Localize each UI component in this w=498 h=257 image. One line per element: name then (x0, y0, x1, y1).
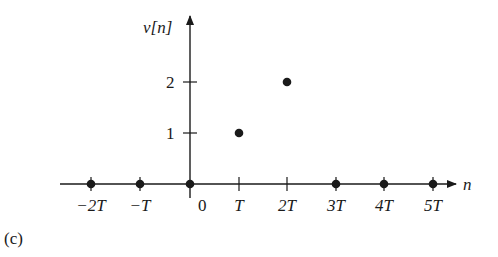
point-4T (380, 180, 389, 189)
point-T (235, 129, 244, 138)
point-2T (283, 78, 292, 87)
x-tick-label-0: 0 (198, 196, 207, 215)
discrete-signal-plot: v[n] 2 1 n −2T −T 0 T 2T 3T 4T 5T (c) (0, 0, 498, 257)
x-tick-label-minus-2T: −2T (76, 196, 107, 215)
point-minus-T (136, 180, 145, 189)
point-5T (429, 180, 438, 189)
x-tick-label-4T: 4T (375, 196, 395, 215)
data-points (87, 78, 438, 189)
point-0 (186, 180, 195, 189)
figure-label: (c) (4, 229, 23, 248)
y-axis-label: v[n] (143, 18, 172, 37)
y-tick-label-2: 2 (166, 73, 175, 92)
x-tick-label-T: T (234, 196, 245, 215)
x-tick-label-minus-T: −T (130, 196, 152, 215)
x-tick-label-3T: 3T (326, 196, 347, 215)
point-minus-2T (87, 180, 96, 189)
point-3T (332, 180, 341, 189)
x-tick-label-5T: 5T (424, 196, 444, 215)
x-axis-label: n (463, 175, 472, 194)
x-tick-label-2T: 2T (278, 196, 298, 215)
y-tick-label-1: 1 (166, 124, 175, 143)
